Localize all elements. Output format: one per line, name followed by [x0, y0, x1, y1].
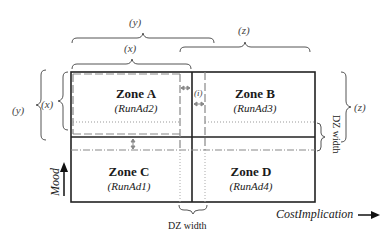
- zone-d-subtitle: (RunAd4): [201, 180, 301, 192]
- brace-left-outer-label: (y): [12, 104, 24, 116]
- zone-b-title: Zone B: [205, 86, 305, 102]
- brace-left-inner: [58, 72, 68, 130]
- brace-top-right: [180, 42, 310, 52]
- brace-bottom-dz: [179, 205, 207, 214]
- zone-d-title: Zone D: [201, 164, 301, 180]
- zone-a-title: Zone A: [86, 86, 186, 102]
- brace-right-dz: [317, 123, 325, 151]
- horizontal-gap-arrow-right: [194, 102, 204, 106]
- x-axis-label: CostImplication: [276, 207, 353, 222]
- dz-width-right-label: DZ width: [331, 115, 342, 154]
- brace-top-outer: [72, 33, 214, 43]
- brace-top-inner: [72, 59, 191, 69]
- gap-label: (i): [194, 88, 203, 98]
- zone-c-subtitle: (RunAd1): [79, 180, 179, 192]
- zone-a-subtitle: (RunAd2): [86, 102, 186, 114]
- zone-b-subtitle: (RunAd3): [205, 102, 305, 114]
- cost-axis-arrow: [358, 211, 380, 219]
- y-axis-label: Mood: [48, 168, 63, 196]
- brace-right-label: (z): [354, 101, 366, 113]
- dz-width-bottom-label: DZ width: [168, 220, 207, 231]
- brace-top-right-label: (z): [238, 24, 250, 36]
- brace-right-z: [341, 72, 351, 142]
- zone-diagram-canvas: [0, 0, 380, 241]
- brace-top-outer-label: (y): [129, 16, 141, 28]
- brace-left-inner-label: (x): [41, 98, 53, 110]
- zone-c-title: Zone C: [79, 164, 179, 180]
- brace-top-inner-label: (x): [124, 42, 136, 54]
- vertical-gap-arrow: [131, 139, 135, 149]
